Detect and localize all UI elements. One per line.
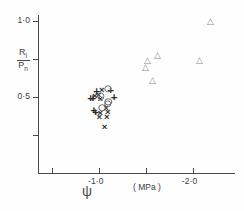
y-axis-denominator-subscript: n <box>24 65 28 72</box>
x-axis-title: ( MPa ) <box>133 182 161 192</box>
x-axis-tick <box>99 168 100 173</box>
x-axis-tick-label: -2·0 <box>182 176 198 186</box>
data-point-triangle: △ <box>149 75 156 84</box>
y-axis-tick-label: 1·0 <box>2 15 30 25</box>
data-point-triangle: △ <box>154 51 161 60</box>
scatter-plot-figure: Rl Pn ψ ( MPa ) 0·51·0-1·0-2·0 △△△△△△×××… <box>0 0 244 211</box>
x-axis-tick-label: -1·0 <box>88 176 104 186</box>
data-point-triangle: △ <box>196 56 203 65</box>
y-axis-tick <box>33 59 38 60</box>
data-point-triangle: △ <box>142 63 149 72</box>
y-axis-tick <box>33 135 38 136</box>
data-point-cross: × <box>104 112 110 122</box>
y-axis-line <box>38 15 39 174</box>
x-axis-tick <box>146 168 147 173</box>
y-axis-numerator-subscript: l <box>26 52 27 59</box>
data-point-plus: + <box>90 93 97 105</box>
data-point-cross: × <box>102 123 108 133</box>
data-point-triangle: △ <box>207 17 214 26</box>
x-axis-line <box>38 173 235 174</box>
y-axis-tick <box>33 21 38 22</box>
x-axis-tick <box>193 168 194 173</box>
y-axis-tick-label: 0·5 <box>2 91 30 101</box>
data-point-plus: + <box>92 108 99 120</box>
x-axis-tick <box>52 168 53 173</box>
y-axis-title: Rl Pn <box>12 48 34 73</box>
y-axis-tick <box>33 97 38 98</box>
